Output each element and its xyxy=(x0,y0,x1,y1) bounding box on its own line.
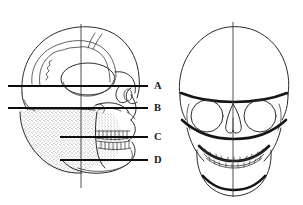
nasal-aperture-edge xyxy=(127,112,135,119)
coronal-suture xyxy=(88,33,95,48)
skull-diagram-figure: A B C D xyxy=(0,0,303,205)
stippled-muscle-region xyxy=(20,110,122,173)
left-orbit xyxy=(191,100,223,132)
external-auditory-meatus xyxy=(116,87,127,103)
left-temporal-wall xyxy=(180,96,186,120)
suture-zigzag xyxy=(46,60,52,80)
plane-label-d: D xyxy=(154,154,162,165)
zygomatic-maxillary-curve xyxy=(182,120,286,139)
plane-label-b: B xyxy=(154,102,161,113)
supraorbital-ridge xyxy=(115,72,135,93)
frontal-cranial-vault xyxy=(179,27,288,96)
plane-label-group: A B C D xyxy=(154,80,162,165)
parietal-suture-contour xyxy=(40,47,111,86)
plane-label-c: C xyxy=(154,131,162,142)
right-orbit xyxy=(244,100,276,132)
nasal-aperture xyxy=(226,104,242,133)
frontal-skull-view xyxy=(179,22,288,197)
skull-diagram-canvas: A B C D xyxy=(0,0,303,205)
mental-protuberance-curve xyxy=(203,176,265,190)
plane-label-a: A xyxy=(154,80,162,91)
cranial-base xyxy=(27,109,95,110)
orbit-inferior-margin xyxy=(63,80,114,96)
lateral-skull-view xyxy=(20,24,139,188)
right-temporal-wall xyxy=(282,95,288,120)
supraorbital-brow-ridge xyxy=(181,93,287,102)
